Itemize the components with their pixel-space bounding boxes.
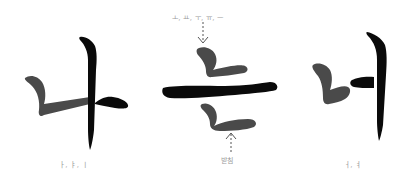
hangul-diagram: ㅗ, ㅛ, ㅜ, ㅠ, ㅡ ㅏ, ㅑ, ㅣ 받침 ㅓ, ㅕ — [0, 0, 417, 189]
top-vowel-caption: ㅗ, ㅛ, ㅜ, ㅠ, ㅡ — [172, 12, 224, 22]
na-consonant-nieun — [25, 76, 90, 116]
batchim-caption: 받침 — [221, 155, 234, 165]
glyph-neo — [312, 32, 386, 141]
bottom-arrow — [226, 133, 236, 152]
na-vowel-stroke-horizontal — [95, 97, 128, 109]
glyph-na — [25, 37, 128, 150]
top-arrow — [198, 22, 208, 43]
neo-vowel-stroke-horizontal — [350, 77, 374, 88]
neun-batchim-nieun — [201, 103, 256, 131]
glyph-neun — [162, 47, 277, 131]
neun-initial-nieun — [197, 47, 248, 77]
na-vowel-stroke-vertical — [79, 37, 96, 150]
right-vowel-caption: ㅓ, ㅕ — [344, 159, 362, 169]
neo-consonant-nieun — [312, 64, 350, 105]
neun-vowel-eu — [162, 82, 277, 98]
left-vowel-caption: ㅏ, ㅑ, ㅣ — [59, 159, 88, 169]
